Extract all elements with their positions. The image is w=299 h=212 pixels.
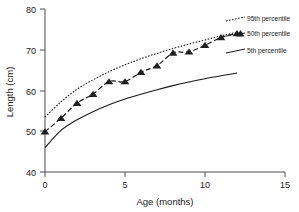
- series-group: [41, 30, 242, 148]
- x-tick-label-15: 15: [280, 180, 290, 190]
- y-tick-label-70: 70: [26, 46, 36, 56]
- growth-chart: 80 70 60 50 40 0 5 10 15 Age (months) Le…: [0, 0, 299, 212]
- data-point-marker: [201, 42, 210, 48]
- data-point-marker: [137, 69, 146, 75]
- y-tick-label-60: 60: [26, 87, 36, 97]
- data-point-marker: [185, 48, 194, 54]
- x-tick-group: 0 5 10 15: [42, 172, 290, 190]
- y-tick-label-40: 40: [26, 168, 36, 178]
- chart-canvas: 80 70 60 50 40 0 5 10 15 Age (months) Le…: [0, 0, 299, 212]
- data-point-markers: [41, 30, 242, 134]
- y-tick-label-80: 80: [26, 5, 36, 15]
- data-point-marker: [169, 50, 178, 56]
- legend-swatch-95th: [226, 17, 245, 21]
- legend-swatch-5th: [226, 49, 245, 53]
- x-tick-label-0: 0: [42, 180, 47, 190]
- curve-50th-percentile: [45, 33, 237, 131]
- curve-5th-percentile: [45, 73, 237, 148]
- legend-label-5th: 5th percentile: [247, 47, 287, 55]
- data-point-marker: [121, 78, 130, 84]
- y-tick-group: 80 70 60 50 40: [26, 5, 45, 178]
- x-axis-title: Age (months): [136, 196, 193, 207]
- x-tick-label-10: 10: [200, 180, 210, 190]
- y-tick-label-50: 50: [26, 127, 36, 137]
- legend-label-50th: 50th percentile: [247, 30, 291, 38]
- x-tick-label-5: 5: [122, 180, 127, 190]
- legend-label-95th: 95th percentile: [247, 15, 291, 23]
- y-axis-title: Length (cm): [4, 67, 15, 118]
